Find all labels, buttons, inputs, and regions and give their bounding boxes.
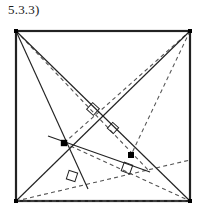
corner-dot-tr [188,29,192,33]
corner-dot-bl [14,199,18,203]
solid-lines-layer [16,31,190,201]
point-p-center [61,140,67,146]
corner-dot-tl [14,29,18,33]
dashed-node-p-to-br [64,143,190,201]
dashed-node-p-to-tr [64,31,190,143]
corner-dot-br [188,199,192,203]
figure-container: 5.3.3) [0,0,206,221]
dashed-bl-diag-to-right [16,160,190,201]
dashed-tr-to-node-q [131,31,190,155]
dashed-tl-to-lower-right [16,31,150,172]
right-angle-lower-left [66,170,77,181]
right-angle-mid-left [107,122,118,133]
point-q-right [128,152,134,158]
geometry-diagram [0,0,206,221]
